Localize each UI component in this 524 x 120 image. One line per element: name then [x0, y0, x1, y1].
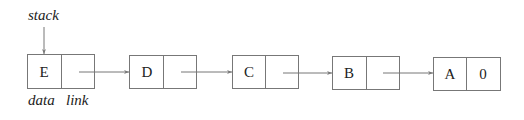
linked-list-diagram: stack E D C B A 0 data link: [0, 0, 524, 120]
node-data-field: E: [39, 64, 48, 80]
node-null-link: 0: [479, 66, 487, 82]
list-node-a: A 0: [434, 58, 501, 91]
node-data-field: A: [445, 66, 456, 82]
link-field-label: link: [66, 92, 89, 108]
node-data-field: B: [344, 65, 354, 81]
list-node-c: C: [233, 56, 299, 89]
node-data-field: C: [244, 64, 254, 80]
data-field-label: data: [28, 92, 55, 108]
node-data-field: D: [142, 64, 153, 80]
stack-pointer-label: stack: [28, 7, 59, 23]
